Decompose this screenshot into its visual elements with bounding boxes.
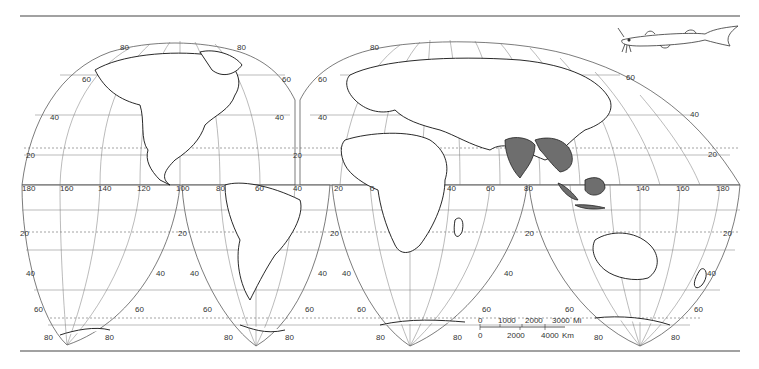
world-distribution-map: 80 80 60 60 40 40 20 20 80 60 60 40 40 2… bbox=[0, 0, 759, 369]
svg-text:80: 80 bbox=[224, 333, 233, 342]
range-borneo bbox=[585, 178, 605, 195]
svg-text:60: 60 bbox=[255, 184, 264, 193]
svg-text:40: 40 bbox=[504, 269, 513, 278]
svg-text:60: 60 bbox=[203, 305, 212, 314]
svg-text:20: 20 bbox=[26, 151, 35, 160]
svg-text:40: 40 bbox=[156, 269, 165, 278]
svg-text:20: 20 bbox=[330, 229, 339, 238]
svg-text:60: 60 bbox=[486, 184, 495, 193]
svg-text:140: 140 bbox=[636, 184, 650, 193]
svg-text:80: 80 bbox=[237, 43, 246, 52]
svg-text:80: 80 bbox=[285, 333, 294, 342]
svg-text:40: 40 bbox=[342, 269, 351, 278]
svg-text:180: 180 bbox=[22, 184, 36, 193]
svg-text:0: 0 bbox=[478, 331, 483, 340]
svg-text:60: 60 bbox=[565, 305, 574, 314]
svg-text:80: 80 bbox=[671, 333, 680, 342]
svg-text:80: 80 bbox=[594, 333, 603, 342]
svg-text:40: 40 bbox=[50, 113, 59, 122]
svg-text:40: 40 bbox=[293, 184, 302, 193]
svg-text:80: 80 bbox=[376, 333, 385, 342]
svg-text:Mi: Mi bbox=[573, 316, 582, 325]
svg-text:2000: 2000 bbox=[507, 331, 525, 340]
svg-text:40: 40 bbox=[190, 269, 199, 278]
svg-text:160: 160 bbox=[60, 184, 74, 193]
svg-text:80: 80 bbox=[120, 43, 129, 52]
svg-text:60: 60 bbox=[282, 75, 291, 84]
svg-text:0: 0 bbox=[370, 184, 375, 193]
svg-text:40: 40 bbox=[26, 269, 35, 278]
svg-text:60: 60 bbox=[626, 73, 635, 82]
svg-text:60: 60 bbox=[694, 305, 703, 314]
svg-text:Km: Km bbox=[562, 331, 574, 340]
scale-bar: 0 1000 2000 3000 Mi 0 2000 4000 Km bbox=[478, 316, 582, 340]
svg-text:20: 20 bbox=[723, 229, 732, 238]
svg-text:40: 40 bbox=[275, 113, 284, 122]
svg-text:180: 180 bbox=[716, 184, 730, 193]
svg-text:20: 20 bbox=[708, 150, 717, 159]
svg-text:160: 160 bbox=[676, 184, 690, 193]
svg-text:4000: 4000 bbox=[541, 331, 559, 340]
svg-text:60: 60 bbox=[82, 75, 91, 84]
svg-text:40: 40 bbox=[690, 110, 699, 119]
svg-text:40: 40 bbox=[447, 184, 456, 193]
svg-text:100: 100 bbox=[176, 184, 190, 193]
svg-text:60: 60 bbox=[318, 75, 327, 84]
svg-text:20: 20 bbox=[20, 229, 29, 238]
svg-text:80: 80 bbox=[370, 43, 379, 52]
svg-text:20: 20 bbox=[334, 184, 343, 193]
catfish-illustration bbox=[618, 26, 738, 53]
svg-text:40: 40 bbox=[318, 269, 327, 278]
svg-text:80: 80 bbox=[524, 184, 533, 193]
svg-text:140: 140 bbox=[98, 184, 112, 193]
svg-text:80: 80 bbox=[105, 333, 114, 342]
svg-text:1000: 1000 bbox=[498, 316, 516, 325]
svg-text:0: 0 bbox=[478, 316, 483, 325]
pacific-south-lobe bbox=[22, 185, 180, 345]
svg-text:20: 20 bbox=[293, 151, 302, 160]
svg-text:60: 60 bbox=[305, 305, 314, 314]
svg-text:120: 120 bbox=[137, 184, 151, 193]
svg-text:80: 80 bbox=[216, 184, 225, 193]
svg-text:80: 80 bbox=[453, 333, 462, 342]
svg-text:20: 20 bbox=[525, 229, 534, 238]
svg-text:40: 40 bbox=[707, 269, 716, 278]
svg-text:80: 80 bbox=[44, 333, 53, 342]
svg-text:3000: 3000 bbox=[552, 316, 570, 325]
svg-text:60: 60 bbox=[34, 305, 43, 314]
svg-text:20: 20 bbox=[178, 229, 187, 238]
svg-text:40: 40 bbox=[318, 113, 327, 122]
svg-text:60: 60 bbox=[482, 305, 491, 314]
svg-text:60: 60 bbox=[357, 305, 366, 314]
svg-text:60: 60 bbox=[135, 305, 144, 314]
svg-text:2000: 2000 bbox=[525, 316, 543, 325]
